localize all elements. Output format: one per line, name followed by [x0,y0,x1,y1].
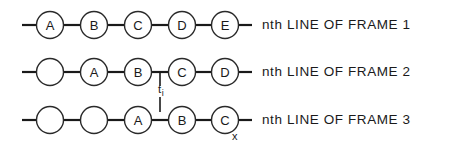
node-label-row1-1: B [90,18,99,33]
frame-row-1: A B C D E [22,12,252,39]
node-label-row1-0: A [46,18,55,33]
node-label-row3-2: A [134,113,143,128]
node-label-row2-2: B [134,65,143,80]
node-label-row3-3: B [178,113,187,128]
node-label-row3-4: C [220,113,229,128]
row-caption-frame-3: nth LINE OF FRAME 3 [262,113,411,127]
node-label-row2-4: D [220,65,229,80]
frame-row-3: A B C [22,107,252,134]
node-label-row1-4: E [221,18,230,33]
node-circle-row2-0 [37,59,64,86]
node-label-row1-3: D [177,18,186,33]
row-caption-frame-2: nth LINE OF FRAME 2 [262,65,411,79]
node-circle-row3-0 [37,107,64,134]
time-marker-subscript: i [161,88,164,98]
node-label-row2-3: C [177,65,186,80]
time-marker-label: ti [158,84,164,98]
x-axis-label: x [232,131,238,142]
node-label-row2-1: A [90,65,99,80]
node-circle-row3-1 [81,107,108,134]
frame-line-diagram: A B C D E A B C [0,0,457,150]
row-caption-frame-1: nth LINE OF FRAME 1 [262,18,411,32]
node-label-row1-2: C [133,18,142,33]
frame-row-2: A B C D [22,59,252,86]
